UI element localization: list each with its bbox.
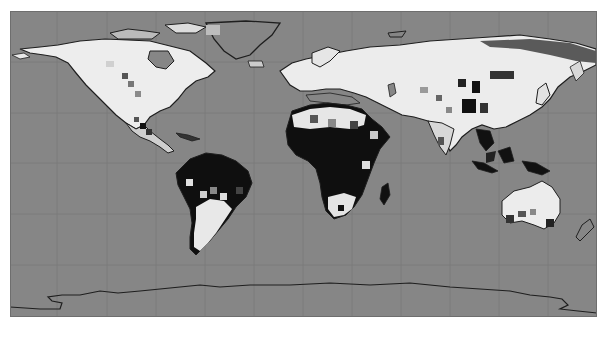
world-map — [10, 11, 597, 317]
iceland — [248, 61, 264, 67]
map-canvas — [10, 11, 597, 317]
